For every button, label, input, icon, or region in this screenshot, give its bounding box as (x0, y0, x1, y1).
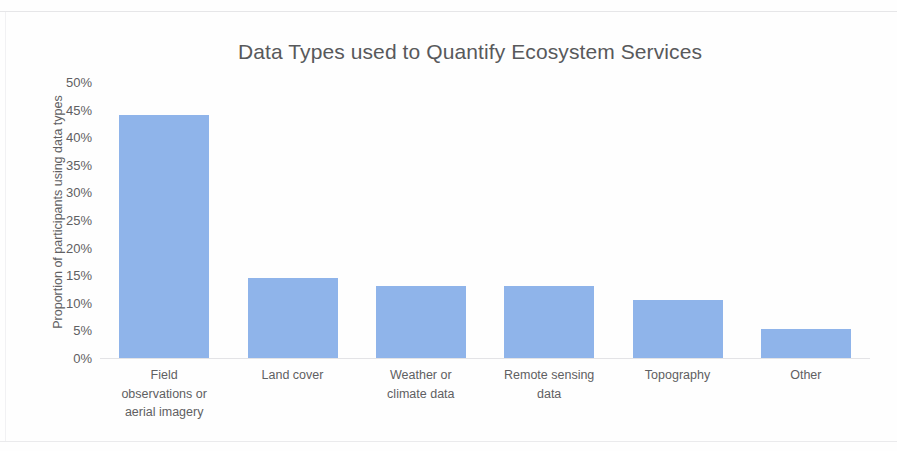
y-axis-tick-label: 25% (48, 213, 92, 228)
x-axis-category-label-line: Other (742, 366, 870, 385)
bar (376, 286, 466, 358)
y-axis-tick-labels: 50%45%40%35%30%25%20%15%10%5%0% (46, 0, 92, 451)
x-axis-category-label-line: data (485, 385, 613, 404)
x-axis-category-label-line: observations or (100, 385, 228, 404)
plot-area (100, 82, 870, 358)
x-axis-category-label: Fieldobservations oraerial imagery (100, 366, 228, 422)
x-axis-category-label: Remote sensingdata (485, 366, 613, 403)
y-axis-tick-label: 5% (48, 323, 92, 338)
bar (248, 278, 338, 358)
scan-artifact-top-line (0, 11, 897, 12)
chart-title: Data Types used to Quantify Ecosystem Se… (60, 40, 880, 64)
x-axis-category-label: Topography (613, 366, 741, 385)
x-axis-category-label-line: Weather or (357, 366, 485, 385)
bar (119, 115, 209, 358)
x-axis-category-labels: Fieldobservations oraerial imageryLand c… (100, 366, 870, 446)
y-axis-tick-label: 15% (48, 268, 92, 283)
x-axis-category-label: Other (742, 366, 870, 385)
y-axis-tick-label: 45% (48, 102, 92, 117)
y-axis-tick-label: 30% (48, 185, 92, 200)
x-axis-category-label-line: Land cover (228, 366, 356, 385)
y-axis-tick-label: 50% (48, 75, 92, 90)
x-axis-category-label-line: aerial imagery (100, 403, 228, 422)
y-axis-tick-label: 10% (48, 295, 92, 310)
x-axis-category-label-line: Field (100, 366, 228, 385)
x-axis-category-label-line: Remote sensing (485, 366, 613, 385)
x-axis-category-label: Land cover (228, 366, 356, 385)
x-axis-category-label-line: climate data (357, 385, 485, 404)
bar (761, 329, 851, 358)
chart-figure: Data Types used to Quantify Ecosystem Se… (0, 0, 897, 451)
x-axis-baseline (100, 358, 870, 359)
y-axis-tick-label: 0% (48, 351, 92, 366)
y-axis-tick-label: 20% (48, 240, 92, 255)
x-axis-category-label: Weather orclimate data (357, 366, 485, 403)
bar (504, 286, 594, 358)
y-axis-tick-label: 40% (48, 130, 92, 145)
bar (633, 300, 723, 358)
y-axis-tick-label: 35% (48, 157, 92, 172)
scan-artifact-left-edge (5, 11, 6, 441)
x-axis-category-label-line: Topography (613, 366, 741, 385)
